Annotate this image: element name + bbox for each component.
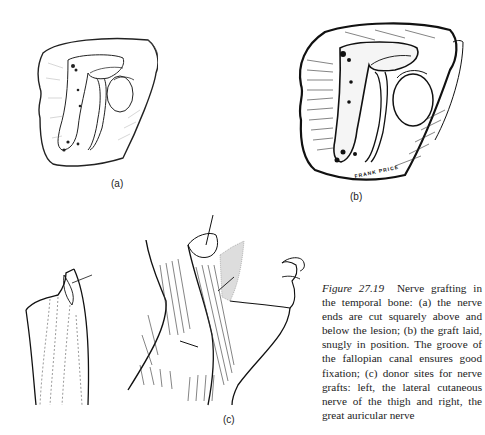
donor-sites-drawing [20, 205, 320, 410]
panel-c-label: (c) [223, 414, 235, 425]
neck-drawing [128, 215, 304, 405]
temporal-bone-drawing-b: FRANK PRICE [285, 10, 485, 190]
caption-text: Nerve grafting in the temporal bone: (a)… [322, 282, 482, 421]
panel-c-illustration [20, 205, 320, 410]
thigh-drawing [26, 269, 92, 405]
figure-number: Figure 27.19 [322, 282, 384, 294]
figure-caption: Figure 27.19 Nerve grafting in the tempo… [322, 281, 482, 422]
panel-b-label: (b) [350, 191, 362, 202]
panel-a-illustration [18, 18, 158, 168]
panel-a-label: (a) [111, 178, 123, 189]
panel-b-illustration: FRANK PRICE [285, 10, 485, 190]
temporal-bone-drawing-a [18, 18, 158, 168]
